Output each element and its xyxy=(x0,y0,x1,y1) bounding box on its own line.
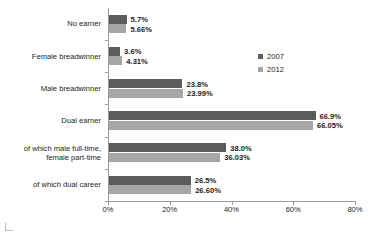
bar-value-label: 26.5% xyxy=(195,176,217,185)
bar-2007-5: 26.5% xyxy=(109,176,191,185)
bar-2007-1: 3.6% xyxy=(109,47,120,56)
bar-value-label: 66.9% xyxy=(320,111,342,120)
bar-2012-4: 36.03% xyxy=(109,153,220,162)
bar-value-label: 3.6% xyxy=(124,47,141,56)
bar-2012-3: 66.05% xyxy=(109,121,313,130)
x-axis-tick-label: 60% xyxy=(286,205,301,214)
legend-label: 2012 xyxy=(267,65,284,74)
bar-value-label: 66.05% xyxy=(317,121,343,130)
chart-category-row: No earner5.7%5.66% xyxy=(108,8,355,40)
legend-swatch-icon xyxy=(258,67,263,72)
category-label: Male breadwinner xyxy=(0,84,101,93)
chart-category-row: Male breadwinner23.8%23.99% xyxy=(108,72,355,104)
category-label: No earner xyxy=(0,19,101,28)
bar-value-label: 36.03% xyxy=(224,153,250,162)
bar-value-label: 26.60% xyxy=(195,185,221,194)
legend-entry-2007[interactable]: 2007 xyxy=(258,50,284,63)
chart-category-row: of which male full-time, female part-tim… xyxy=(108,137,355,169)
legend-entry-2012[interactable]: 2012 xyxy=(258,63,284,76)
bar-chart: No earner5.7%5.66%Female breadwinner3.6%… xyxy=(0,0,375,234)
x-axis-tick-label: 20% xyxy=(162,205,177,214)
bar-2012-1: 4.31% xyxy=(109,56,122,65)
category-label: Female breadwinner xyxy=(0,52,101,61)
bar-2012-5: 26.60% xyxy=(109,185,191,194)
chart-category-row: of which dual career26.5%26.60% xyxy=(108,169,355,201)
corner-artifact xyxy=(5,223,13,231)
bar-value-label: 38.0% xyxy=(230,143,252,152)
x-axis-tick-label: 40% xyxy=(224,205,239,214)
legend-swatch-icon xyxy=(258,54,263,59)
category-label: of which dual career xyxy=(0,180,101,189)
legend-label: 2007 xyxy=(267,52,284,61)
plot-area: No earner5.7%5.66%Female breadwinner3.6%… xyxy=(108,8,355,201)
bar-value-label: 23.8% xyxy=(186,79,208,88)
x-axis-tick-label: 80% xyxy=(347,205,362,214)
x-axis-tick-label: 0% xyxy=(103,205,114,214)
chart-category-row: Dual earner66.9%66.05% xyxy=(108,105,355,137)
bar-value-label: 5.66% xyxy=(130,24,152,33)
bar-value-label: 4.31% xyxy=(126,56,148,65)
chart-legend: 20072012 xyxy=(258,50,284,76)
bar-value-label: 23.99% xyxy=(187,89,213,98)
bar-2012-2: 23.99% xyxy=(109,89,183,98)
category-label: of which male full-time, female part-tim… xyxy=(0,144,101,162)
bar-2007-4: 38.0% xyxy=(109,143,226,152)
bar-2007-2: 23.8% xyxy=(109,79,182,88)
chart-category-row: Female breadwinner3.6%4.31% xyxy=(108,40,355,72)
bar-2007-3: 66.9% xyxy=(109,111,316,120)
category-label: Dual earner xyxy=(0,116,101,125)
bar-value-label: 5.7% xyxy=(131,15,148,24)
bar-2007-0: 5.7% xyxy=(109,15,127,24)
bar-2012-0: 5.66% xyxy=(109,24,126,33)
